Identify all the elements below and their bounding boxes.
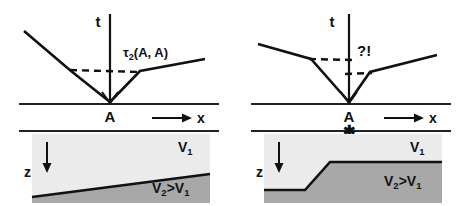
right-x-axis-group: x xyxy=(384,110,437,126)
right-question-annotation: ?! xyxy=(357,42,371,59)
left-x-axis-group: x xyxy=(152,110,205,126)
right-traveltime-branch-left xyxy=(258,44,349,102)
left-tau-args: (A, A) xyxy=(134,45,168,60)
left-x-arrow-head-icon xyxy=(182,114,192,123)
left-traveltime-branch-right xyxy=(110,59,205,102)
left-x-axis-label: x xyxy=(197,110,205,126)
left-model-block: z V1 V2>V1 xyxy=(19,131,219,203)
left-tau-annotation: τ2(A, A) xyxy=(123,45,168,62)
left-traveltime-branch-left xyxy=(24,31,110,102)
right-z-axis-label: z xyxy=(256,164,263,180)
left-z-axis-label: z xyxy=(24,164,31,180)
left-traveltime-plot: t τ2(A, A) xyxy=(24,13,205,102)
left-v2-relation-subscript: 1 xyxy=(184,187,190,198)
left-source-label: A xyxy=(105,108,116,125)
seismic-traveltime-figure: t τ2(A, A) A x xyxy=(0,0,464,206)
right-t-axis-label: t xyxy=(330,13,335,30)
right-v2-relation-subscript: 1 xyxy=(416,180,422,191)
right-v1-subscript: 1 xyxy=(419,146,425,157)
figure-root: t τ2(A, A) A x xyxy=(0,0,464,206)
right-traveltime-plot: t ?! xyxy=(258,13,437,102)
right-x-axis-label: x xyxy=(429,110,437,126)
left-v1-subscript: 1 xyxy=(187,146,193,157)
right-reciprocal-dashed-line-left xyxy=(309,59,353,60)
left-t-axis-label: t xyxy=(96,13,101,30)
panel-right: t ?! A x xyxy=(251,13,451,203)
left-reciprocal-dashed-line xyxy=(70,70,141,72)
left-surface-group: A xyxy=(19,92,219,125)
panel-left: t τ2(A, A) A x xyxy=(19,13,219,203)
right-v2-relation: >V xyxy=(399,173,417,189)
left-v2-relation: >V xyxy=(167,180,185,196)
right-traveltime-branch-right xyxy=(349,55,437,102)
right-x-arrow-head-icon xyxy=(414,114,424,123)
right-model-block: ✱ z V1 V2>V1 xyxy=(251,122,451,203)
